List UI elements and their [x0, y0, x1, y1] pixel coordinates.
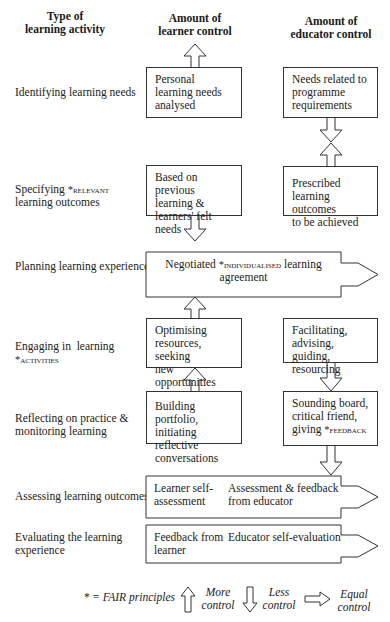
equal-control-arrow-icon [305, 592, 330, 606]
box-line: Learner self- [154, 482, 213, 495]
box-line: Educator self-evaluation [228, 531, 341, 544]
less-control-arrow-icon [243, 587, 257, 612]
legend-line: Less [258, 586, 300, 599]
assessing-learner-side: Learner self- assessment [154, 482, 213, 508]
down-arrow-icon [320, 118, 342, 142]
fair-keyword: *individualised [219, 259, 281, 270]
legend-more-control: More control [198, 586, 238, 612]
fair-keyword: *feedback [324, 424, 366, 435]
box-evaluating: Feedback from learner Educator self-eval… [146, 525, 341, 563]
box-line: requirements [292, 99, 369, 112]
box-line: Building portfolio, [155, 400, 233, 426]
box-line: resourcing [292, 363, 369, 376]
box-line: Personal [155, 73, 233, 86]
box-previous-learning: Based on previous learning & learners' f… [146, 165, 242, 216]
box-facilitating: Facilitating, advising, guiding, resourc… [283, 318, 378, 363]
box-line: programme [292, 86, 369, 99]
box-line: Negotiated *individualised learning [146, 258, 341, 271]
box-line: analysed [155, 99, 233, 112]
box-optimising: Optimising resources, seeking new opport… [146, 318, 242, 368]
evaluating-learner-side: Feedback from learner [154, 531, 223, 557]
legend-line: More [198, 586, 238, 599]
box-line: learning needs [155, 86, 233, 99]
box-line: Facilitating, [292, 324, 369, 337]
down-arrow-icon [320, 446, 342, 475]
box-personal-needs: Personal learning needs analysed [146, 67, 242, 118]
evaluating-educator-side: Educator self-evaluation [228, 531, 341, 544]
box-assessing: Learner self- assessment Assessment & fe… [146, 476, 341, 518]
box-line: learners' felt needs [155, 210, 233, 236]
box-line: resources, seeking [155, 337, 233, 363]
box-line: Prescribed [292, 177, 369, 190]
legend-equal-control: Equal control [333, 588, 375, 614]
box-line: Needs related to [292, 73, 369, 86]
legend-line: control [258, 599, 300, 612]
up-arrow-icon [184, 44, 206, 67]
box-line: from educator [228, 495, 339, 508]
box-line: Optimising [155, 324, 233, 337]
legend-less-control: Less control [258, 586, 300, 612]
box-line: learning outcomes [292, 190, 369, 216]
box-portfolio: Building portfolio, initiating reflectiv… [146, 391, 242, 444]
box-line: Assessment & feedback [228, 482, 339, 495]
text: Negotiated [165, 258, 218, 270]
more-control-arrow-icon [181, 587, 195, 612]
legend-fair-principles: * = FAIR principles [80, 591, 175, 604]
box-line: agreement [146, 271, 341, 284]
box-line: new opportunities [155, 363, 233, 389]
legend-line: control [333, 601, 375, 614]
up-arrow-icon [184, 297, 206, 318]
text: giving [292, 423, 324, 435]
box-negotiated-agreement: Negotiated *individualised learning agre… [146, 252, 341, 297]
box-line: learner [154, 544, 223, 557]
legend-line: Equal [333, 588, 375, 601]
up-arrow-icon [320, 143, 342, 166]
box-line: Feedback from [154, 531, 223, 544]
box-sounding-board: Sounding board, critical friend, giving … [283, 391, 378, 446]
box-programme-needs: Needs related to programme requirements [283, 67, 378, 118]
box-line: conversations [155, 452, 233, 465]
box-line: Sounding board, [292, 397, 369, 410]
box-line: advising, guiding, [292, 337, 369, 363]
legend-line: control [198, 599, 238, 612]
box-prescribed-outcomes: Prescribed learning outcomes to be achie… [283, 166, 378, 216]
box-line: to be achieved [292, 216, 369, 229]
box-line: learning & [155, 197, 233, 210]
box-line: initiating reflective [155, 426, 233, 452]
assessing-educator-side: Assessment & feedback from educator [228, 482, 339, 508]
box-line: critical friend, [292, 410, 369, 423]
box-line: Based on previous [155, 171, 233, 197]
box-line: giving *feedback [292, 423, 369, 436]
text: learning [281, 258, 322, 270]
box-line: assessment [154, 495, 213, 508]
